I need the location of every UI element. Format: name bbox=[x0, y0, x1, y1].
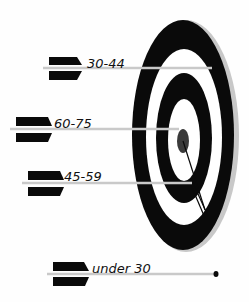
arrow-label-45-59: 45-59 bbox=[64, 170, 102, 183]
arrow-label-under-30: under 30 bbox=[92, 262, 151, 275]
arrow-label-60-75: 60-75 bbox=[54, 117, 92, 130]
target-diagram: 30-44 60-75 45-59 under 30 bbox=[0, 0, 249, 302]
arrow-label-30-44: 30-44 bbox=[87, 57, 125, 70]
target-graphic bbox=[0, 0, 249, 302]
target-board-icon bbox=[132, 20, 239, 252]
